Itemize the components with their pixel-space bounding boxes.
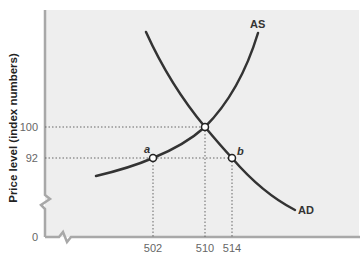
- point-b-marker: [229, 155, 236, 162]
- x-tick-502: 502: [144, 242, 162, 254]
- point-b-label: b: [237, 145, 244, 157]
- equilibrium-marker: [202, 124, 209, 131]
- y-tick-0: 0: [32, 231, 38, 243]
- x-tick-510: 510: [196, 242, 214, 254]
- point-a-label: a: [144, 143, 150, 155]
- as-label: AS: [250, 18, 265, 30]
- as-ad-chart: AS AD a b 100 92 0 502 510 514 Price lev…: [0, 0, 364, 260]
- ad-label: AD: [298, 204, 314, 216]
- x-tick-514: 514: [223, 242, 241, 254]
- y-axis-label: Price level (index numbers): [7, 53, 19, 203]
- y-tick-92: 92: [26, 152, 38, 164]
- y-tick-100: 100: [20, 121, 38, 133]
- point-a-marker: [150, 155, 157, 162]
